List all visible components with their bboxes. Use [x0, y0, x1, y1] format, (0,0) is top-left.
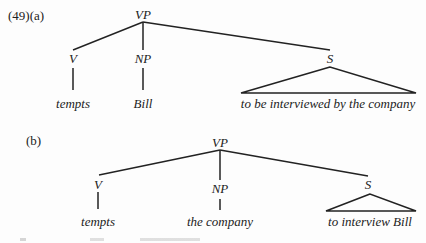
node-vp: VP: [135, 8, 151, 21]
node-np: NP: [135, 52, 152, 65]
node-vp: VP: [212, 136, 228, 149]
cropped-text-line: [20, 238, 200, 241]
leaf-tempts: tempts: [56, 97, 90, 110]
leaf-tempts: tempts: [81, 215, 115, 228]
leaf-bill: Bill: [134, 97, 153, 110]
leaf-s-phrase: to be interviewed by the company: [241, 97, 415, 110]
example-a-label: (49)(a): [8, 9, 44, 22]
node-s: S: [365, 178, 372, 191]
leaf-the-company: the company: [187, 215, 253, 228]
node-v: V: [94, 178, 102, 191]
node-np: NP: [212, 182, 229, 195]
tree-lines: [0, 0, 426, 243]
node-v: V: [69, 52, 77, 65]
node-s: S: [327, 52, 334, 65]
example-b-label: (b): [26, 134, 41, 147]
leaf-s-phrase: to interview Bill: [328, 215, 412, 228]
